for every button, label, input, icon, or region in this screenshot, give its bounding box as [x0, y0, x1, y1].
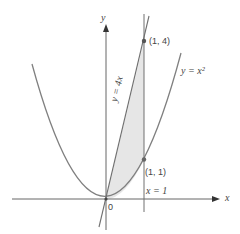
point-1-4 [142, 39, 146, 43]
origin-label: 0 [108, 202, 113, 212]
point-label-1-4: (1, 4) [149, 36, 170, 46]
plot-canvas [0, 0, 240, 234]
diagram: y x 0 (1, 4) (1, 1) y = x² y = 4x x = 1 [0, 0, 240, 234]
x-axis-arrow-icon [212, 196, 220, 202]
y-axis-label: y [101, 12, 105, 23]
parabola-label: y = x² [181, 65, 205, 76]
point-label-1-1: (1, 1) [145, 167, 166, 177]
vertical-line-label: x = 1 [146, 185, 167, 196]
x-axis-label: x [225, 192, 229, 203]
y-axis-arrow-icon [103, 24, 109, 32]
point-origin [104, 197, 107, 200]
point-1-1 [142, 157, 146, 161]
